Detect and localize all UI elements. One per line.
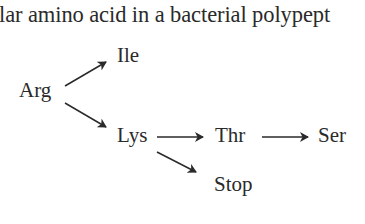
node-arg: Arg: [19, 80, 51, 101]
node-ser: Ser: [318, 125, 346, 146]
arrow-arg-to-ile: [65, 62, 106, 86]
arrow-layer: [0, 0, 365, 224]
arrow-lys-to-stop: [157, 152, 196, 172]
node-thr: Thr: [215, 125, 245, 146]
node-stop: Stop: [214, 174, 253, 195]
arrow-arg-to-lys: [65, 103, 106, 127]
node-ile: Ile: [117, 45, 139, 66]
node-lys: Lys: [117, 125, 147, 146]
